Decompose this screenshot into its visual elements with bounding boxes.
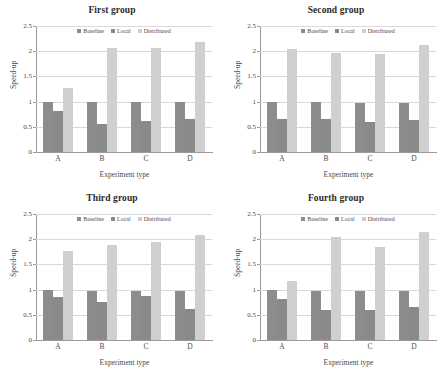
legend-label: Baseline <box>307 216 328 222</box>
y-tick-label: 2.5 <box>247 210 256 218</box>
legend-item-distributed[interactable]: Distributed <box>362 28 395 34</box>
chart-panel-3: Third group00.511.522.5BaselineLocalDist… <box>0 188 224 376</box>
y-tick-label: 0.5 <box>23 123 32 131</box>
bar-baseline-A <box>43 290 53 340</box>
bar-baseline-B <box>87 291 97 340</box>
legend-label: Local <box>341 216 355 222</box>
x-tick-label-B: B <box>87 154 117 163</box>
x-tick-label-B: B <box>311 342 341 351</box>
y-axis-label: Speed-up <box>233 61 242 89</box>
bar-baseline-A <box>43 102 53 152</box>
y-tick-label: 2 <box>253 235 257 243</box>
y-tick-mark <box>33 152 36 153</box>
x-tick-label-C: C <box>131 342 161 351</box>
bar-group-D <box>399 26 429 152</box>
legend-label: Distributed <box>368 28 395 34</box>
x-tick-row: ABCD <box>36 342 212 351</box>
legend-swatch-icon <box>362 29 366 33</box>
bar-group-C <box>355 26 385 152</box>
y-tick-label: 2.5 <box>23 210 32 218</box>
chart-grid: First group00.511.522.5BaselineLocalDist… <box>0 0 448 376</box>
legend-label: Local <box>341 28 355 34</box>
y-tick-label: 0.5 <box>247 123 256 131</box>
legend-label: Baseline <box>83 28 104 34</box>
plot-area: 00.511.522.5 <box>260 26 436 152</box>
legend-swatch-icon <box>362 217 366 221</box>
bar-distributed-A <box>287 49 297 152</box>
bar-local-B <box>321 310 331 340</box>
x-axis-label: Experiment type <box>260 358 437 367</box>
x-tick-label-A: A <box>267 342 297 351</box>
y-tick-mark <box>33 340 36 341</box>
bar-baseline-B <box>87 102 97 152</box>
y-tick-label: 0 <box>253 148 257 156</box>
bar-local-B <box>97 124 107 152</box>
legend-label: Baseline <box>83 216 104 222</box>
legend-item-distributed[interactable]: Distributed <box>138 216 171 222</box>
y-tick-mark <box>257 152 260 153</box>
bar-local-A <box>277 119 287 152</box>
x-axis-line <box>36 340 213 341</box>
chart-panel-4: Fourth group00.511.522.5BaselineLocalDis… <box>224 188 448 376</box>
legend-item-baseline[interactable]: Baseline <box>301 28 328 34</box>
legend-swatch-icon <box>111 29 115 33</box>
bar-distributed-C <box>375 54 385 152</box>
bar-group-C <box>355 214 385 340</box>
x-tick-label-D: D <box>399 154 429 163</box>
legend-swatch-icon <box>138 29 142 33</box>
bar-local-B <box>321 119 331 152</box>
bar-group-B <box>87 26 117 152</box>
legend-item-local[interactable]: Local <box>335 28 355 34</box>
bar-distributed-D <box>419 232 429 340</box>
legend-item-baseline[interactable]: Baseline <box>77 28 104 34</box>
bar-group-B <box>87 214 117 340</box>
legend-label: Local <box>117 28 131 34</box>
legend-item-baseline[interactable]: Baseline <box>77 216 104 222</box>
x-axis-line <box>36 152 213 153</box>
legend-item-baseline[interactable]: Baseline <box>301 216 328 222</box>
y-tick-mark <box>257 340 260 341</box>
legend-item-local[interactable]: Local <box>111 216 131 222</box>
bar-local-D <box>409 120 419 152</box>
legend-label: Distributed <box>368 216 395 222</box>
bar-local-D <box>185 119 195 152</box>
x-tick-row: ABCD <box>260 342 436 351</box>
bar-group-D <box>399 214 429 340</box>
bar-distributed-C <box>151 48 161 152</box>
bar-distributed-A <box>63 251 73 340</box>
bar-groups <box>260 26 436 152</box>
y-tick-label: 2.5 <box>247 22 256 30</box>
bar-baseline-C <box>355 291 365 340</box>
chart-title: Second group <box>224 5 448 15</box>
chart-panel-2: Second group00.511.522.5BaselineLocalDis… <box>224 0 448 188</box>
legend-item-distributed[interactable]: Distributed <box>362 216 395 222</box>
bar-groups <box>36 26 212 152</box>
y-tick-label: 1.5 <box>23 260 32 268</box>
bar-baseline-A <box>267 102 277 152</box>
y-tick-label: 1 <box>29 286 33 294</box>
bar-local-A <box>277 299 287 340</box>
y-tick-label: 0.5 <box>23 311 32 319</box>
bar-baseline-C <box>131 291 141 340</box>
legend-item-local[interactable]: Local <box>335 216 355 222</box>
x-tick-label-B: B <box>311 154 341 163</box>
legend-item-local[interactable]: Local <box>111 28 131 34</box>
bar-baseline-D <box>175 102 185 152</box>
bar-group-C <box>131 214 161 340</box>
x-tick-label-D: D <box>399 342 429 351</box>
legend-swatch-icon <box>138 217 142 221</box>
bar-local-C <box>141 121 151 152</box>
bar-local-D <box>185 309 195 340</box>
legend-swatch-icon <box>301 217 305 221</box>
legend-item-distributed[interactable]: Distributed <box>138 28 171 34</box>
bar-distributed-D <box>195 42 205 152</box>
bar-distributed-A <box>63 88 73 152</box>
y-tick-label: 2.5 <box>23 22 32 30</box>
bar-distributed-B <box>107 245 117 340</box>
bar-distributed-A <box>287 281 297 340</box>
y-tick-label: 0.5 <box>247 311 256 319</box>
bar-local-B <box>97 302 107 340</box>
x-tick-label-D: D <box>175 342 205 351</box>
chart-title: Third group <box>0 193 224 203</box>
x-axis-label: Experiment type <box>260 170 437 179</box>
